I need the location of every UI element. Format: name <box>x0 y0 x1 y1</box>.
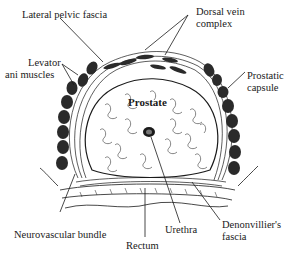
label-dorsal-vein-complex-line2: complex <box>196 18 232 29</box>
label-prostate: Prostate <box>128 97 167 108</box>
label-dorsal-vein-complex-line1: Dorsal vein <box>196 6 245 17</box>
label-lateral-pelvic-fascia: Lateral pelvic fascia <box>22 9 107 20</box>
label-levator-ani-line1: Levator <box>28 57 61 68</box>
label-denonvilliers-fascia-line2: fascia <box>222 231 246 242</box>
label-denonvilliers-fascia-line1: Denonvillier's <box>222 219 281 230</box>
label-rectum: Rectum <box>126 240 159 251</box>
label-urethra: Urethra <box>165 224 197 235</box>
label-levator-ani-line2: ani muscles <box>5 69 54 80</box>
label-prostatic-capsule-line2: capsule <box>247 82 279 93</box>
label-neurovascular-bundle: Neurovascular bundle <box>14 229 106 240</box>
label-prostatic-capsule-line1: Prostatic <box>247 70 284 81</box>
